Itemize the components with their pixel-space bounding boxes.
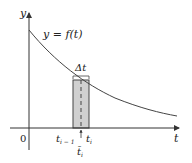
curve-f-of-t bbox=[29, 30, 177, 116]
curve-label: y = f(t) bbox=[42, 28, 83, 41]
origin-label: 0 bbox=[20, 133, 26, 144]
y-axis-label: y bbox=[19, 7, 27, 20]
t-bar-i-label: t̄i bbox=[77, 146, 83, 158]
t-i-minus-1-label: ti − 1 bbox=[56, 133, 75, 145]
delta-t-label: Δt bbox=[74, 62, 87, 73]
riemann-diagram: y t 0 y = f(t) Δt ti − 1 ti t̄i bbox=[0, 0, 192, 163]
t-i-label: ti bbox=[86, 133, 92, 145]
x-axis-label: t bbox=[174, 132, 179, 145]
